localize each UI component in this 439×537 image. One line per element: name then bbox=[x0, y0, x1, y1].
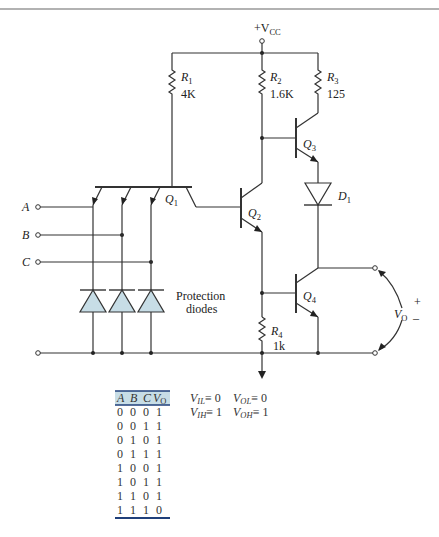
logic-level-definitions: VIL≡ 0 VOL≡ 0 VIH≡ 1 VOH≡ 1 bbox=[190, 391, 268, 420]
svg-text:C: C bbox=[22, 255, 31, 269]
svg-text:0: 0 bbox=[130, 475, 136, 489]
truth-table: A B C VO 0001 0011 0101 0111 1001 1011 1… bbox=[115, 391, 170, 518]
svg-text:1: 1 bbox=[117, 475, 123, 489]
svg-text:0: 0 bbox=[156, 503, 162, 517]
svg-text:R3: R3 bbox=[326, 70, 339, 86]
svg-text:1: 1 bbox=[143, 475, 149, 489]
svg-text:+VCC: +VCC bbox=[254, 21, 281, 37]
svg-text:125: 125 bbox=[327, 87, 345, 101]
svg-text:diodes: diodes bbox=[186, 302, 218, 316]
svg-text:1: 1 bbox=[143, 503, 149, 517]
svg-text:Q1: Q1 bbox=[165, 192, 178, 208]
transistor-q3: Q3 bbox=[262, 113, 318, 183]
svg-text:Q4: Q4 bbox=[303, 289, 317, 305]
svg-text:1: 1 bbox=[156, 489, 162, 503]
svg-text:VOL≡ 0: VOL≡ 0 bbox=[233, 391, 267, 406]
svg-text:R2: R2 bbox=[269, 70, 282, 86]
svg-text:Protection: Protection bbox=[176, 289, 225, 303]
svg-text:1: 1 bbox=[143, 419, 149, 433]
svg-text:0: 0 bbox=[117, 405, 123, 419]
svg-text:R4: R4 bbox=[270, 324, 283, 340]
svg-text:0: 0 bbox=[117, 419, 123, 433]
svg-text:0: 0 bbox=[143, 433, 149, 447]
svg-text:0: 0 bbox=[130, 405, 136, 419]
svg-text:1: 1 bbox=[156, 433, 162, 447]
ttl-nand-circuit: +VCC R1 4K R2 1.6K R3 125 Q3 D1 bbox=[0, 0, 439, 537]
svg-text:VOH≡ 1: VOH≡ 1 bbox=[233, 405, 268, 420]
truth-table-row: 0101 bbox=[117, 433, 162, 447]
truth-table-row: 1011 bbox=[117, 475, 162, 489]
svg-text:VO: VO bbox=[394, 307, 407, 323]
ground-arrow-icon bbox=[258, 371, 266, 379]
output-terminals: VO + – bbox=[318, 266, 421, 356]
svg-text:A: A bbox=[21, 200, 30, 214]
svg-text:VIL≡ 0: VIL≡ 0 bbox=[190, 391, 221, 406]
svg-text:0: 0 bbox=[130, 419, 136, 433]
transistor-q2: Q2 bbox=[241, 183, 262, 317]
svg-text:B: B bbox=[130, 391, 138, 405]
svg-text:1k: 1k bbox=[273, 339, 285, 353]
resistor-r3: R3 125 bbox=[315, 53, 345, 113]
input-c: C bbox=[22, 255, 153, 269]
svg-text:1: 1 bbox=[156, 461, 162, 475]
truth-table-row: 1001 bbox=[117, 461, 162, 475]
svg-text:C: C bbox=[143, 391, 152, 405]
protection-diodes: Protection diodes bbox=[80, 289, 225, 316]
svg-text:R1: R1 bbox=[180, 70, 193, 86]
svg-text:1: 1 bbox=[117, 503, 123, 517]
svg-text:0: 0 bbox=[143, 461, 149, 475]
svg-text:1: 1 bbox=[156, 419, 162, 433]
input-b: B bbox=[22, 228, 124, 242]
truth-table-row: 0001 bbox=[117, 405, 162, 419]
truth-table-row: 1101 bbox=[117, 489, 162, 503]
ground-rail bbox=[36, 351, 373, 379]
svg-text:1: 1 bbox=[117, 461, 123, 475]
svg-text:Q3: Q3 bbox=[303, 137, 316, 153]
resistor-r2: R2 1.6K bbox=[259, 53, 294, 183]
svg-text:0: 0 bbox=[143, 405, 149, 419]
transistor-q1: Q1 bbox=[92, 187, 241, 208]
svg-text:1: 1 bbox=[130, 489, 136, 503]
svg-text:1.6K: 1.6K bbox=[270, 87, 294, 101]
svg-text:1: 1 bbox=[156, 475, 162, 489]
resistor-r1: R1 4K bbox=[169, 53, 196, 187]
resistor-r4: R4 1k bbox=[259, 317, 285, 353]
truth-table-row: 1110 bbox=[117, 503, 162, 517]
svg-text:+: + bbox=[414, 295, 421, 309]
svg-text:VIH≡ 1: VIH≡ 1 bbox=[190, 405, 222, 420]
svg-text:1: 1 bbox=[143, 447, 149, 461]
svg-text:0: 0 bbox=[117, 433, 123, 447]
svg-text:1: 1 bbox=[117, 489, 123, 503]
svg-text:A: A bbox=[116, 391, 125, 405]
svg-text:1: 1 bbox=[156, 447, 162, 461]
svg-text:1: 1 bbox=[130, 447, 136, 461]
svg-text:0: 0 bbox=[143, 489, 149, 503]
svg-text:B: B bbox=[22, 228, 30, 242]
input-a: A bbox=[21, 200, 93, 214]
svg-text:–: – bbox=[412, 311, 420, 325]
svg-text:1: 1 bbox=[130, 433, 136, 447]
transistor-q4: Q4 bbox=[262, 268, 320, 355]
truth-table-row: 0111 bbox=[117, 447, 162, 461]
svg-text:1: 1 bbox=[156, 405, 162, 419]
truth-table-row: 0011 bbox=[117, 419, 162, 433]
svg-text:4K: 4K bbox=[181, 87, 196, 101]
diode-d1: D1 bbox=[304, 183, 351, 268]
svg-text:1: 1 bbox=[130, 503, 136, 517]
svg-text:0: 0 bbox=[130, 461, 136, 475]
vcc-terminal: +VCC bbox=[254, 21, 281, 53]
svg-text:0: 0 bbox=[117, 447, 123, 461]
svg-text:D1: D1 bbox=[337, 189, 351, 205]
svg-text:Q2: Q2 bbox=[248, 206, 261, 222]
